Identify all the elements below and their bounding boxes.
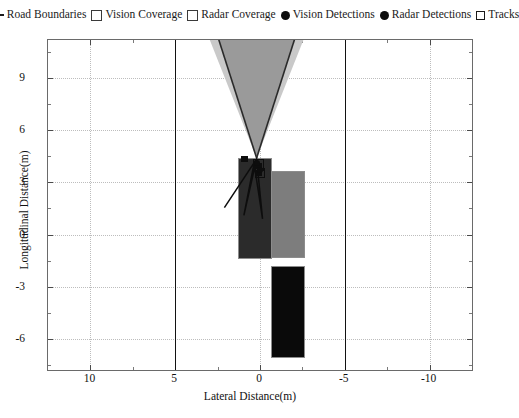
legend-label: Radar Coverage: [201, 9, 275, 21]
left-boundary: [175, 40, 176, 370]
vision-detection-dot-icon: [281, 11, 290, 20]
vision-detection-marker: [241, 156, 248, 163]
track-box-icon: [476, 11, 485, 20]
plot-legend: Road Boundaries Vision Coverage Radar Co…: [0, 6, 500, 24]
y-tick-label: 9: [19, 71, 25, 83]
x-tick-label: -10: [421, 372, 436, 384]
legend-label: Radar Detections: [392, 9, 472, 21]
right-boundary: [345, 40, 346, 370]
legend-item-radar-coverage[interactable]: Radar Coverage: [187, 9, 275, 21]
track-box: [255, 168, 265, 179]
legend-item-tracks[interactable]: Tracks: [476, 9, 519, 21]
plot-area: [47, 39, 473, 371]
legend-item-road-boundaries[interactable]: Road Boundaries: [0, 9, 86, 21]
y-axis-title: Longitudinal Distance(m): [18, 110, 30, 310]
legend-label: Road Boundaries: [7, 9, 87, 21]
road-boundary-line-icon: [0, 14, 4, 16]
x-axis-title: Lateral Distance(m): [0, 390, 500, 402]
detection-ray-layer: [48, 40, 472, 370]
radar-coverage-swatch-icon: [187, 10, 198, 21]
legend-label: Vision Coverage: [105, 9, 182, 21]
legend-item-radar-detections[interactable]: Radar Detections: [380, 9, 472, 21]
x-tick-label: 10: [84, 372, 96, 384]
legend-item-vision-detections[interactable]: Vision Detections: [281, 9, 375, 21]
x-tick-label: -5: [339, 372, 349, 384]
x-tick-label: 0: [256, 372, 262, 384]
vision-coverage-swatch-icon: [91, 10, 102, 21]
legend-label: Tracks: [488, 9, 519, 21]
y-tick-label: -6: [15, 332, 25, 344]
legend-label: Vision Detections: [293, 9, 375, 21]
legend-item-vision-coverage[interactable]: Vision Coverage: [91, 9, 182, 21]
x-tick-label: 5: [171, 372, 177, 384]
radar-detection-dot-icon: [380, 11, 389, 20]
